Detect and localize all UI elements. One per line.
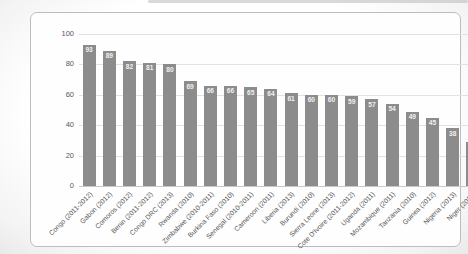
bar-value-label: 45 [426,120,439,127]
bar-value-label: 54 [386,106,399,113]
bar: 66 [224,86,237,186]
plot-area: 0204060801009389828180696666656461606059… [79,34,468,186]
bar: 60 [305,95,318,186]
bar-value-label: 66 [204,88,217,95]
scanned-page: { "chart_data": { "type": "bar", "title"… [0,0,468,254]
y-axis-tick-label: 0 [70,182,74,190]
bar-value-label: 60 [325,97,338,104]
scan-artifact [148,0,468,3]
bar-value-label: 60 [305,97,318,104]
bar: 80 [163,64,176,186]
bar: 64 [264,89,277,186]
chart-frame: 0204060801009389828180696666656461606059… [30,12,461,247]
bar: 57 [365,99,378,186]
bar-value-label: 49 [406,114,419,121]
bar: 49 [406,112,419,186]
bar-value-label: 65 [244,90,257,97]
bar: 81 [143,63,156,186]
gridline [79,64,468,65]
bar: 59 [345,96,358,186]
y-axis-tick-label: 40 [66,121,74,129]
bar: 82 [123,61,136,186]
y-axis-tick-label: 100 [61,30,74,38]
bar-value-label: 81 [143,65,156,72]
bar: 54 [386,104,399,186]
bar: 93 [83,45,96,186]
bar-value-label: 66 [224,88,237,95]
y-axis-tick-label: 80 [66,61,74,69]
bar-value-label: 61 [285,96,298,103]
bar: 89 [103,51,116,186]
bar-value-label: 59 [345,99,358,106]
bar-value-label: 93 [83,47,96,54]
bar-value-label: 89 [103,53,116,60]
bar: 38 [446,128,459,186]
y-axis-tick-label: 20 [66,152,74,160]
bar-value-label: 69 [184,84,197,91]
bar: 65 [244,87,257,186]
bar-value-label: 82 [123,64,136,71]
bar: 66 [204,86,217,186]
x-axis-labels: Congo (2011-2012)Gabon (2012)Comoros (20… [79,191,468,254]
bar: 69 [184,81,197,186]
gridline [79,186,468,187]
bar-value-label: 57 [365,102,378,109]
bar: 60 [325,95,338,186]
bar: 45 [426,118,439,186]
gridline [79,34,468,35]
bar-value-label: 38 [446,131,459,138]
y-axis-tick-label: 60 [66,91,74,99]
bar-value-label: 80 [163,67,176,74]
bar: 61 [285,93,298,186]
bar-value-label: 64 [264,91,277,98]
